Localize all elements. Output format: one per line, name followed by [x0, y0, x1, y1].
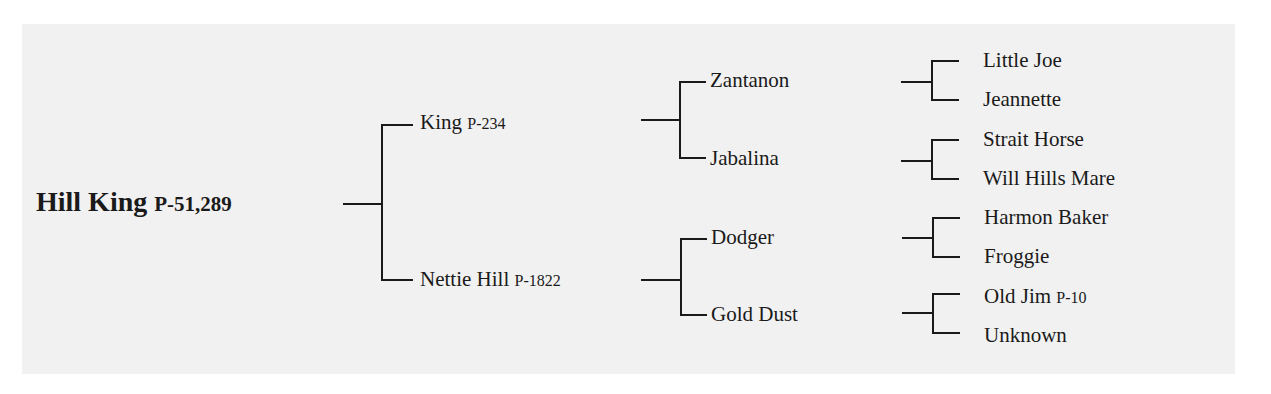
- connector-gg3-top: [932, 217, 960, 219]
- connector-dam: [381, 279, 413, 281]
- grandsire-maternal-name: Dodger: [711, 225, 774, 249]
- gg-name: Old Jim: [984, 284, 1051, 308]
- granddam-paternal: Jabalina: [710, 146, 779, 170]
- connector-gg4-bottom: [932, 332, 960, 334]
- great-grandparent-6: Froggie: [984, 244, 1049, 268]
- connector-sire-line: [641, 119, 679, 121]
- connector-gg3: [902, 237, 932, 239]
- connector-gg4-top: [932, 293, 960, 295]
- great-grandparent-5: Harmon Baker: [984, 205, 1108, 229]
- sire-horse: King P-234: [420, 110, 505, 136]
- connector-gg1-bottom: [931, 99, 959, 101]
- connector-gg2-bottom: [931, 178, 959, 180]
- connector-gg4-vertical: [932, 293, 934, 334]
- great-grandparent-3: Strait Horse: [983, 127, 1084, 151]
- subject-horse: Hill King P-51,289: [36, 186, 232, 220]
- gg-name: Will Hills Mare: [983, 166, 1115, 190]
- gg-name: Strait Horse: [983, 127, 1084, 151]
- granddam-maternal-name: Gold Dust: [711, 302, 798, 326]
- connector-sire-vertical: [679, 81, 681, 159]
- connector-dam-dam: [680, 314, 707, 316]
- gg-name: Froggie: [984, 244, 1049, 268]
- connector-gg1-top: [931, 60, 959, 62]
- connector-dam-vertical: [680, 238, 682, 316]
- connector-sire-dam: [679, 157, 706, 159]
- great-grandparent-7: Old Jim P-10: [984, 284, 1087, 310]
- connector-gg2-vertical: [931, 139, 933, 180]
- sire-name: King: [420, 110, 462, 134]
- great-grandparent-2: Jeannette: [983, 87, 1061, 111]
- connector-dam-line: [641, 279, 680, 281]
- connector-gg2-top: [931, 139, 959, 141]
- connector-gg3-bottom: [932, 256, 960, 258]
- grandsire-maternal: Dodger: [711, 225, 774, 249]
- connector-subject: [343, 203, 381, 205]
- sire-registration: P-234: [467, 115, 505, 132]
- granddam-maternal: Gold Dust: [711, 302, 798, 326]
- connector-gg3-vertical: [932, 217, 934, 258]
- gg-name: Unknown: [984, 323, 1067, 347]
- grandsire-paternal-name: Zantanon: [710, 68, 789, 92]
- connector-dam-sire: [680, 238, 707, 240]
- gg-registration: P-10: [1056, 289, 1086, 306]
- connector-gg2: [901, 160, 931, 162]
- dam-horse: Nettie Hill P-1822: [420, 267, 561, 293]
- granddam-paternal-name: Jabalina: [710, 146, 779, 170]
- gg-name: Jeannette: [983, 87, 1061, 111]
- connector-gg1-vertical: [931, 60, 933, 101]
- gg-name: Little Joe: [983, 48, 1062, 72]
- great-grandparent-1: Little Joe: [983, 48, 1062, 72]
- connector-parents-vertical: [381, 124, 383, 281]
- connector-sire-sire: [679, 81, 706, 83]
- connector-sire: [381, 124, 413, 126]
- great-grandparent-4: Will Hills Mare: [983, 166, 1115, 190]
- dam-name: Nettie Hill: [420, 267, 509, 291]
- gg-name: Harmon Baker: [984, 205, 1108, 229]
- subject-registration: P-51,289: [154, 192, 232, 216]
- connector-gg1: [901, 81, 931, 83]
- grandsire-paternal: Zantanon: [710, 68, 789, 92]
- subject-name: Hill King: [36, 186, 147, 217]
- great-grandparent-8: Unknown: [984, 323, 1067, 347]
- connector-gg4: [902, 312, 932, 314]
- dam-registration: P-1822: [514, 272, 560, 289]
